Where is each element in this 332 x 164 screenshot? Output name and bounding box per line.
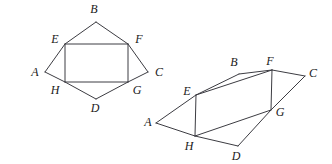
vertex-label-A: A xyxy=(30,65,39,79)
edge-EF xyxy=(196,70,272,95)
edge-GD xyxy=(96,82,128,99)
edge-FC xyxy=(272,70,305,76)
vertex-label-F: F xyxy=(134,32,143,46)
vertex-label-A: A xyxy=(143,115,152,129)
vertex-label-C: C xyxy=(309,66,318,80)
edge-DH xyxy=(65,82,96,99)
edge-EB xyxy=(196,74,239,95)
vertex-label-G: G xyxy=(133,83,142,97)
edge-HA xyxy=(156,123,195,136)
edge-AE xyxy=(156,95,196,123)
vertex-label-H: H xyxy=(50,83,61,97)
edge-FC xyxy=(128,44,148,72)
edge-HA xyxy=(45,72,65,82)
diagram-canvas: ABCDEFGH ABCDEFGH xyxy=(0,0,332,164)
right-figure-group: ABCDEFGH xyxy=(143,54,318,163)
edge-FG xyxy=(271,70,272,110)
vertex-label-D: D xyxy=(90,101,100,115)
vertex-label-F: F xyxy=(265,54,274,68)
vertex-label-E: E xyxy=(50,32,59,46)
edge-EB xyxy=(65,22,96,44)
edge-BF xyxy=(96,22,128,44)
edge-DH xyxy=(195,136,238,146)
edge-CG xyxy=(128,72,148,82)
vertex-label-E: E xyxy=(182,84,191,98)
vertex-label-B: B xyxy=(230,55,238,69)
geometry-figure-svg: ABCDEFGH ABCDEFGH xyxy=(0,0,332,164)
vertex-label-C: C xyxy=(155,65,164,79)
vertex-label-G: G xyxy=(276,105,285,119)
vertex-label-B: B xyxy=(90,2,98,16)
edge-AE xyxy=(45,44,65,72)
vertex-label-D: D xyxy=(231,149,241,163)
vertex-label-H: H xyxy=(184,139,195,153)
edge-HE xyxy=(195,95,196,136)
left-figure-group: ABCDEFGH xyxy=(30,2,164,115)
